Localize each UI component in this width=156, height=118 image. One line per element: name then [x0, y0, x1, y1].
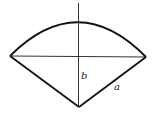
left-radius [10, 56, 79, 107]
sector-diagram: b a [0, 0, 156, 118]
chord-line [10, 56, 146, 57]
right-radius-a [79, 57, 146, 107]
label-b: b [81, 70, 87, 81]
label-a: a [114, 81, 120, 92]
